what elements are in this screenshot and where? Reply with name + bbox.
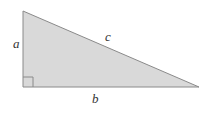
- side-label-c: c: [105, 30, 111, 43]
- side-label-a: a: [13, 37, 20, 50]
- side-label-b: b: [92, 92, 99, 105]
- triangle-figure: a b c: [0, 0, 210, 115]
- triangle-drawing: [0, 0, 210, 115]
